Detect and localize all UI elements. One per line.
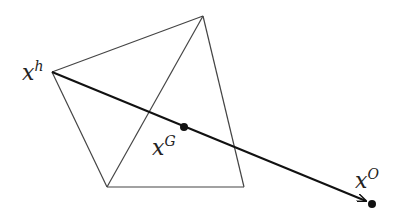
label-xO: xO <box>355 166 379 193</box>
centroid-point <box>180 123 188 131</box>
label-xh-base: x <box>22 60 35 85</box>
label-xO-sup: O <box>367 166 379 182</box>
edge-xh-top <box>52 16 203 72</box>
reflection-ray-arrow <box>52 72 366 201</box>
label-xh-sup: h <box>34 58 43 74</box>
label-xG-base: x <box>152 135 165 160</box>
simplex-reflection-diagram: xh xG xO <box>0 0 401 214</box>
label-xG-sup: G <box>164 133 175 149</box>
label-xh: xh <box>22 58 43 85</box>
edge-top-bottom-right <box>203 16 244 187</box>
label-xO-base: x <box>355 168 368 193</box>
label-xG: xG <box>152 133 176 160</box>
polytope-edges <box>52 16 244 187</box>
edge-xh-bottom-left <box>52 72 107 187</box>
reflected-point <box>368 200 376 208</box>
